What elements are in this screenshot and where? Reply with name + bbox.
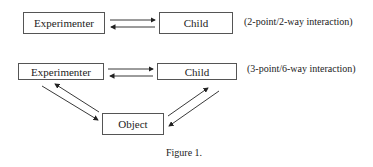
figure-caption: Figure 1.: [166, 147, 202, 158]
node-object: Object: [102, 113, 164, 135]
arrow-exp-to-object: [42, 86, 98, 120]
node-label: Child: [184, 17, 208, 29]
node-experimenter-2: Experimenter: [18, 63, 104, 80]
node-label: Experimenter: [31, 66, 91, 78]
interaction-note-2: (3-point/6-way interaction): [247, 63, 356, 74]
node-experimenter-1: Experimenter: [23, 12, 105, 34]
node-label: Object: [118, 118, 147, 130]
node-label: Child: [185, 66, 209, 78]
node-label: Experimenter: [34, 17, 94, 29]
arrow-child-to-object: [169, 91, 219, 126]
arrow-object-to-child: [168, 88, 208, 116]
node-child-2: Child: [157, 63, 237, 80]
node-child-1: Child: [159, 12, 233, 34]
interaction-note-1: (2-point/2-way interaction): [244, 16, 353, 27]
